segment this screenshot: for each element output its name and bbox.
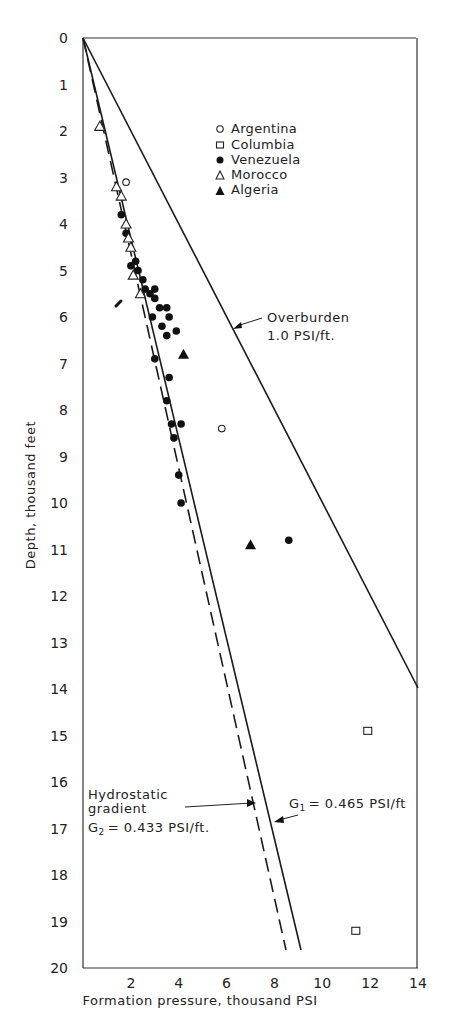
columbia-point: [364, 727, 372, 734]
y-tick-label: 3: [59, 170, 68, 186]
y-axis-title: Depth, thousand feet: [23, 421, 38, 569]
depth-pressure-chart: 01234567891011121314151617181920 2468101…: [0, 0, 449, 1026]
x-axis-ticks: 2468101214: [126, 975, 427, 991]
venezuela-point: [170, 434, 178, 442]
y-tick-label: 13: [50, 635, 68, 651]
y-tick-label: 1: [59, 77, 68, 93]
y-axis-ticks: 01234567891011121314151617181920: [50, 30, 68, 976]
g1-label: G1= 0.465 PSI/ft: [289, 796, 406, 813]
legend-filled-circle-icon: [217, 157, 224, 164]
venezuela-point: [151, 295, 159, 303]
gradient-label: gradient: [88, 801, 147, 816]
venezuela-point: [151, 355, 159, 363]
x-tick-label: 6: [222, 975, 231, 991]
y-tick-label: 19: [50, 914, 68, 930]
x-tick-label: 14: [409, 975, 427, 991]
legend-label-argentina: Argentina: [231, 121, 297, 136]
venezuela-point: [165, 313, 173, 321]
overburden-annotation: Overburden 1.0 PSI/ft.: [233, 310, 349, 343]
venezuela-point: [163, 397, 171, 405]
venezuela-point: [139, 276, 147, 284]
venezuela-point: [158, 323, 166, 331]
venezuela-point: [151, 285, 159, 293]
x-tick-label: 12: [361, 975, 379, 991]
venezuela-point: [163, 332, 171, 340]
y-tick-label: 2: [59, 123, 68, 139]
g2-label: G2= 0.433 PSI/ft.: [88, 820, 210, 837]
y-tick-label: 10: [50, 495, 68, 511]
venezuela-point: [177, 499, 185, 507]
morocco-point: [126, 242, 136, 251]
y-tick-label: 4: [59, 216, 68, 232]
y-tick-label: 8: [59, 402, 68, 418]
argentina-point: [123, 179, 130, 186]
x-tick-label: 10: [313, 975, 331, 991]
stray-mark: [116, 301, 121, 306]
morocco-point: [112, 182, 122, 191]
y-tick-label: 11: [50, 542, 68, 558]
hydrostatic-label: Hydrostatic: [88, 787, 168, 802]
argentina-point: [218, 425, 225, 432]
y-tick-label: 16: [50, 774, 68, 790]
venezuela-point: [173, 327, 181, 335]
y-tick-label: 20: [50, 960, 68, 976]
venezuela-point: [132, 257, 140, 265]
y-tick-label: 7: [59, 356, 68, 372]
venezuela-point: [175, 471, 183, 479]
y-tick-label: 5: [59, 263, 68, 279]
columbia-point: [352, 927, 360, 934]
x-axis-title: Formation pressure, thousand PSI: [83, 993, 318, 1008]
legend-open-circle-icon: [217, 126, 223, 132]
venezuela-point: [149, 313, 157, 321]
y-tick-label: 18: [50, 867, 68, 883]
overburden-label: Overburden: [267, 310, 349, 325]
y-tick-label: 15: [50, 728, 68, 744]
y-tick-label: 9: [59, 449, 68, 465]
legend: Argentina Columbia Venezuela Morocco Alg…: [216, 121, 301, 197]
legend-label-morocco: Morocco: [231, 167, 288, 182]
overburden-gradient-label: 1.0 PSI/ft.: [267, 328, 335, 343]
legend-open-triangle-icon: [216, 171, 224, 179]
algeria-point: [178, 349, 189, 359]
morocco-point: [121, 219, 131, 228]
venezuela-point: [285, 536, 293, 544]
venezuela-point: [168, 420, 176, 428]
g1-annotation: G1= 0.465 PSI/ft: [274, 796, 406, 823]
legend-label-algeria: Algeria: [231, 182, 279, 197]
legend-filled-triangle-icon: [216, 186, 225, 195]
algeria-point: [245, 539, 256, 549]
x-tick-label: 2: [126, 975, 135, 991]
legend-open-square-icon: [217, 142, 224, 148]
venezuela-point: [165, 374, 173, 382]
venezuela-point: [156, 304, 164, 312]
venezuela-point: [177, 420, 185, 428]
y-tick-label: 0: [59, 30, 68, 46]
venezuela-point: [117, 211, 125, 219]
y-tick-label: 14: [50, 681, 68, 697]
y-tick-label: 6: [59, 309, 68, 325]
hydrostatic-annotation: Hydrostatic gradient G2= 0.433 PSI/ft.: [88, 787, 256, 837]
y-tick-label: 12: [50, 588, 68, 604]
venezuela-point: [163, 304, 171, 312]
y-tick-label: 17: [50, 821, 68, 837]
legend-label-columbia: Columbia: [231, 137, 295, 152]
x-tick-label: 4: [174, 975, 183, 991]
x-tick-label: 8: [270, 975, 279, 991]
legend-label-venezuela: Venezuela: [231, 152, 300, 167]
